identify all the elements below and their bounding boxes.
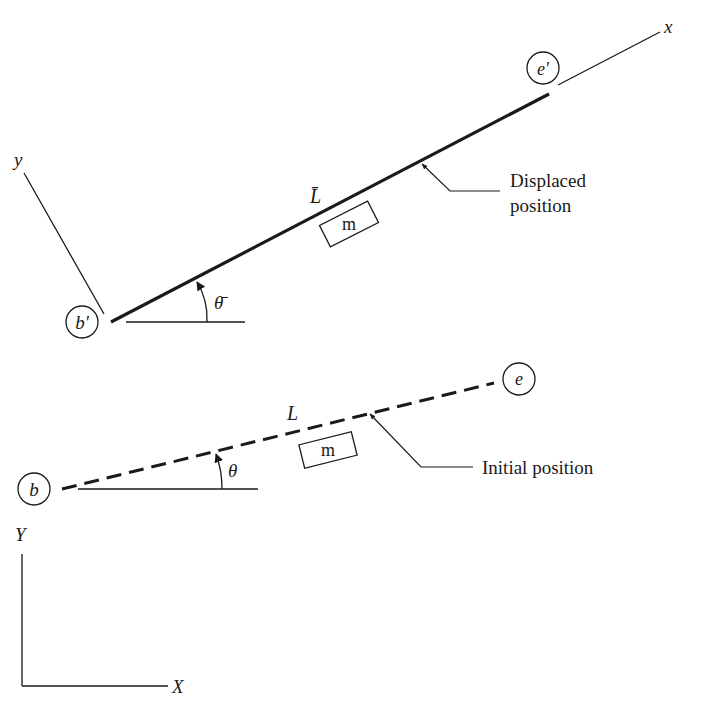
node-e-prime-label: e′ xyxy=(537,59,550,79)
displaced-angle-label: θ̄ xyxy=(214,292,228,313)
local-x-axis-label: x xyxy=(663,16,673,37)
initial-bar-group: b e θ L m Initial position xyxy=(18,363,594,505)
local-x-axis xyxy=(558,32,660,85)
local-y-axis xyxy=(24,173,104,314)
initial-callout-label: Initial position xyxy=(482,457,594,478)
initial-bar xyxy=(62,383,494,489)
local-y-axis-label: y xyxy=(12,149,23,170)
displaced-bar xyxy=(111,94,549,322)
initial-mass-block: m xyxy=(299,432,357,468)
diagram-canvas: y x b′ e′ θ̄ L̄ m Displaced position xyxy=(0,0,703,712)
displaced-bar-group: y x b′ e′ θ̄ L̄ m Displaced position xyxy=(12,16,673,338)
initial-length-label: L xyxy=(286,402,298,424)
displaced-mass-label: m xyxy=(342,214,356,234)
initial-mass-label: m xyxy=(321,440,335,460)
displaced-callout-line2: position xyxy=(510,195,572,216)
node-b-label: b xyxy=(29,479,39,500)
global-y-axis-label: Y xyxy=(15,524,28,545)
initial-angle-label: θ xyxy=(228,460,237,481)
global-x-axis-label: X xyxy=(171,676,185,697)
initial-callout-leader xyxy=(370,414,473,467)
displaced-callout-leader xyxy=(422,164,500,191)
displaced-angle-arc xyxy=(197,282,207,322)
displaced-callout-line1: Displaced xyxy=(510,170,586,191)
global-axes: Y X xyxy=(15,524,185,697)
node-e-label: e xyxy=(515,369,523,389)
node-b-prime-label: b′ xyxy=(75,312,90,333)
initial-angle-arc xyxy=(216,454,222,489)
bar-displacement-diagram: y x b′ e′ θ̄ L̄ m Displaced position xyxy=(0,0,703,712)
displaced-length-label: L̄ xyxy=(309,185,321,207)
